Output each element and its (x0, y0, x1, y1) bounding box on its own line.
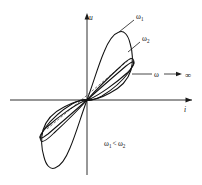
vertical-axis-label: u (89, 13, 93, 22)
figure-container: u i ω1 ω2 ω ∞ ω1<ω2 (0, 0, 202, 185)
horizontal-axis-arrowhead (186, 98, 193, 103)
omega1-leader-line (119, 20, 134, 32)
omega2-label: ω2 (142, 34, 150, 44)
relation-operator: < (113, 140, 117, 148)
horizontal-axis-label: i (184, 105, 186, 114)
relation-left-subscript: 1 (109, 143, 112, 149)
omega1-label: ω1 (136, 12, 144, 22)
omega-limit-arrowhead (176, 72, 182, 76)
hysteresis-diagram: u i ω1 ω2 ω ∞ ω1<ω2 (0, 0, 202, 185)
infinity-label: ∞ (185, 70, 191, 80)
omega1-subscript: 1 (141, 16, 144, 22)
relation-right-subscript: 2 (123, 143, 126, 149)
axes-group (10, 13, 192, 175)
leader-lines-group (119, 20, 182, 76)
relation-note: ω1<ω2 (104, 139, 126, 149)
omega2-subscript: 2 (147, 38, 150, 44)
labels-group: u i ω1 ω2 ω ∞ ω1<ω2 (89, 12, 191, 149)
omega-limit-label: ω (154, 70, 159, 79)
